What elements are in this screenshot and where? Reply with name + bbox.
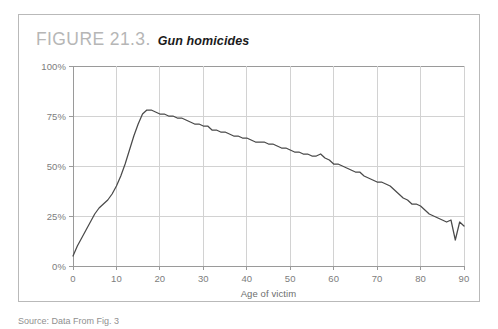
x-tick-label: 20 (146, 273, 174, 284)
y-tick-label: 25% (32, 211, 66, 222)
x-tick-label: 0 (59, 273, 87, 284)
chart-svg (19, 15, 481, 303)
x-tick-label: 80 (407, 273, 435, 284)
y-tick-label: 50% (32, 161, 66, 172)
x-axis-title: Age of victim (169, 288, 369, 299)
x-tick-label: 10 (102, 273, 130, 284)
y-tick-label: 75% (32, 111, 66, 122)
tick-marks (69, 66, 464, 270)
figure-container: FIGURE 21.3.Gun homicides 0%25%50%75%100… (18, 14, 480, 302)
y-tick-label: 100% (32, 61, 66, 72)
chart-plot-area: 0%25%50%75%100% 0102030405060708090 Age … (19, 15, 481, 303)
x-tick-label: 70 (363, 273, 391, 284)
x-tick-label: 40 (233, 273, 261, 284)
grid-lines (73, 66, 464, 266)
x-tick-label: 60 (320, 273, 348, 284)
x-tick-label: 30 (189, 273, 217, 284)
y-tick-label: 0% (32, 261, 66, 272)
source-note: Source: Data From Fig. 3 (18, 316, 119, 329)
x-tick-label: 50 (276, 273, 304, 284)
x-tick-label: 90 (450, 273, 478, 284)
gun-homicides-line (73, 110, 464, 256)
